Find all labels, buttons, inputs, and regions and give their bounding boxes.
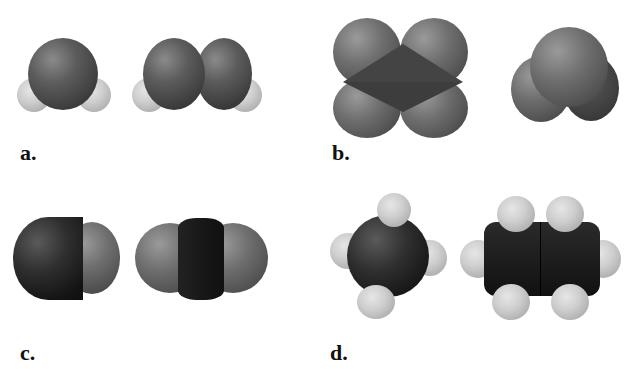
small-atom (551, 284, 589, 320)
dark-atom-pair (484, 222, 600, 296)
atom (530, 27, 608, 107)
center-atom-top (343, 44, 463, 82)
panel-label-c: c. (20, 340, 35, 366)
dark-atom (13, 217, 83, 300)
small-atom (357, 285, 395, 319)
panel-label-b: b. (332, 140, 350, 166)
molecule-figure: a. b. c. d. (0, 0, 636, 369)
large-atom (28, 38, 98, 110)
dark-atom (347, 215, 429, 297)
small-atom (546, 196, 584, 232)
panel-label-d: d. (330, 340, 348, 366)
small-atom (497, 196, 535, 232)
bond-divider (540, 222, 541, 296)
dark-atom (178, 218, 224, 300)
small-atom (377, 193, 411, 227)
panel-label-a: a. (20, 140, 37, 166)
center-atom-bottom (343, 82, 463, 112)
small-atom (492, 284, 530, 320)
large-atom (143, 38, 205, 110)
